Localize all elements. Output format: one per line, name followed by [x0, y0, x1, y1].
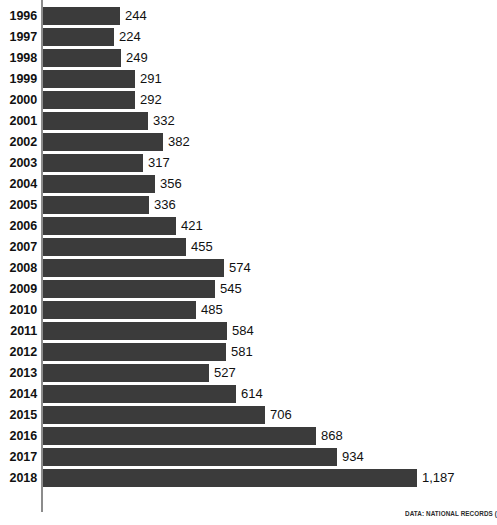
bar — [43, 385, 236, 403]
bar-value-label: 382 — [168, 134, 190, 150]
bar-value-label: 455 — [191, 239, 213, 255]
bar-category-label: 2009 — [0, 282, 37, 297]
bar-track — [43, 154, 143, 172]
bar — [43, 238, 186, 256]
bar-category-label: 1999 — [0, 72, 37, 87]
bar-track — [43, 406, 265, 424]
bar-row: 2013527 — [0, 364, 494, 385]
bar-category-label: 2014 — [0, 387, 37, 402]
bar-category-label: 2016 — [0, 429, 37, 444]
bar-value-label: 356 — [160, 176, 182, 192]
bar-track — [43, 364, 209, 382]
bar-value-label: 584 — [232, 323, 254, 339]
bar-track — [43, 28, 114, 46]
bar — [43, 259, 224, 277]
bar-value-label: 614 — [241, 386, 263, 402]
bar-category-label: 2002 — [0, 135, 37, 150]
bar-track — [43, 301, 196, 319]
bar-category-label: 2001 — [0, 114, 37, 129]
bar-value-label: 868 — [321, 428, 343, 444]
bar-track — [43, 49, 121, 67]
bar — [43, 7, 120, 25]
bar-category-label: 2010 — [0, 303, 37, 318]
bar-value-label: 224 — [119, 29, 141, 45]
bar-row: 2007455 — [0, 238, 494, 259]
bar-row: 2006421 — [0, 217, 494, 238]
bar-track — [43, 469, 417, 487]
bar-category-label: 2007 — [0, 240, 37, 255]
bar-row: 2004356 — [0, 175, 494, 196]
bar-row: 2017934 — [0, 448, 494, 469]
bar-category-label: 2000 — [0, 93, 37, 108]
bar-category-label: 2017 — [0, 450, 37, 465]
bar-value-label: 527 — [214, 365, 236, 381]
bar-value-label: 291 — [140, 71, 162, 87]
bar — [43, 28, 114, 46]
bar-category-label: 2018 — [0, 471, 37, 486]
bar — [43, 406, 265, 424]
bar-track — [43, 238, 186, 256]
bar-row: 2016868 — [0, 427, 494, 448]
bar-category-label: 1996 — [0, 9, 37, 24]
bar-category-label: 2012 — [0, 345, 37, 360]
bar — [43, 133, 163, 151]
bar-track — [43, 322, 227, 340]
bar-row: 20181,187 — [0, 469, 494, 490]
bar-value-label: 421 — [181, 218, 203, 234]
bar-row: 2001332 — [0, 112, 494, 133]
bar-category-label: 2013 — [0, 366, 37, 381]
bar-track — [43, 217, 176, 235]
bar-row: 1998249 — [0, 49, 494, 70]
bar-row: 2010485 — [0, 301, 494, 322]
bar — [43, 91, 135, 109]
bar-value-label: 336 — [154, 197, 176, 213]
bar — [43, 280, 215, 298]
bar — [43, 49, 121, 67]
bar — [43, 70, 135, 88]
bar-row: 2011584 — [0, 322, 494, 343]
bar-track — [43, 385, 236, 403]
bar-row: 2014614 — [0, 385, 494, 406]
bar-track — [43, 175, 155, 193]
bar-track — [43, 448, 337, 466]
bar-row: 1997224 — [0, 28, 494, 49]
bar — [43, 427, 316, 445]
bar-value-label: 934 — [342, 449, 364, 465]
bar-category-label: 2011 — [0, 324, 37, 339]
bar-row: 2000292 — [0, 91, 494, 112]
bar-category-label: 1997 — [0, 30, 37, 45]
bar — [43, 217, 176, 235]
bar — [43, 364, 209, 382]
bar-category-label: 2006 — [0, 219, 37, 234]
bar-row: 2012581 — [0, 343, 494, 364]
bar-row: 2005336 — [0, 196, 494, 217]
bar-category-label: 2004 — [0, 177, 37, 192]
bar — [43, 322, 227, 340]
bar — [43, 343, 226, 361]
bar-row: 1999291 — [0, 70, 494, 91]
bar — [43, 448, 337, 466]
bar-track — [43, 280, 215, 298]
bar-value-label: 581 — [231, 344, 253, 360]
bar-category-label: 2015 — [0, 408, 37, 423]
bar-value-label: 244 — [125, 8, 147, 24]
source-caption: DATA: NATIONAL RECORDS ( — [405, 509, 497, 518]
bar-value-label: 249 — [126, 50, 148, 66]
bar-track — [43, 91, 135, 109]
bar — [43, 196, 149, 214]
bar-track — [43, 112, 148, 130]
bar — [43, 175, 155, 193]
bar-row: 2002382 — [0, 133, 494, 154]
bar-category-label: 2005 — [0, 198, 37, 213]
bar-value-label: 1,187 — [422, 470, 455, 486]
bar-category-label: 2008 — [0, 261, 37, 276]
bar-track — [43, 133, 163, 151]
bar — [43, 469, 417, 487]
bar-category-label: 1998 — [0, 51, 37, 66]
bar — [43, 112, 148, 130]
bar-row: 1996244 — [0, 7, 494, 28]
bar-track — [43, 70, 135, 88]
bar-row: 2009545 — [0, 280, 494, 301]
bar-rows-container: 1996244199722419982491999291200029220013… — [0, 7, 494, 490]
